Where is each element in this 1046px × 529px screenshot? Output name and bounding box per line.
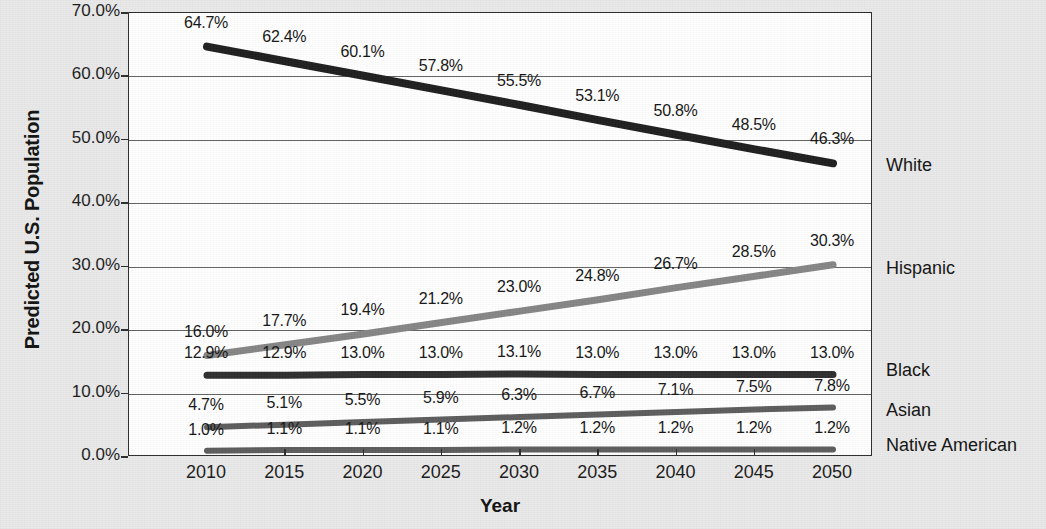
data-point-label: 1.1% — [267, 420, 302, 438]
data-point-label: 1.2% — [814, 419, 849, 437]
data-point-label: 12.9% — [184, 344, 228, 362]
y-tick-mark — [121, 329, 128, 331]
data-point-label: 13.0% — [419, 344, 463, 362]
x-tick-label: 2045 — [709, 462, 799, 483]
x-tick-mark — [754, 449, 756, 456]
data-point-label: 1.0% — [188, 421, 223, 439]
data-point-label: 1.2% — [580, 419, 615, 437]
data-point-label: 13.1% — [497, 343, 541, 361]
data-point-label: 1.1% — [345, 420, 380, 438]
data-point-label: 5.1% — [267, 394, 302, 412]
x-tick-label: 2050 — [787, 462, 877, 483]
data-point-label: 28.5% — [732, 243, 776, 261]
data-point-label: 5.5% — [345, 391, 380, 409]
data-point-label: 13.0% — [810, 344, 854, 362]
data-point-label: 19.4% — [341, 301, 385, 319]
data-point-label: 24.8% — [575, 267, 619, 285]
data-point-label: 23.0% — [497, 278, 541, 296]
x-tick-mark — [363, 449, 365, 456]
x-tick-label: 2040 — [631, 462, 721, 483]
y-tick-label: 0.0% — [28, 445, 120, 465]
data-point-label: 57.8% — [419, 57, 463, 75]
data-point-label: 12.9% — [262, 344, 306, 362]
y-tick-label: 30.0% — [28, 255, 120, 275]
y-tick-label: 20.0% — [28, 318, 120, 338]
x-tick-label: 2030 — [474, 462, 564, 483]
y-tick-mark — [121, 202, 128, 204]
data-point-label: 62.4% — [262, 28, 306, 46]
data-point-label: 55.5% — [497, 72, 541, 90]
data-point-label: 7.8% — [814, 377, 849, 395]
data-point-label: 13.0% — [341, 344, 385, 362]
x-tick-label: 2025 — [396, 462, 486, 483]
y-tick-mark — [121, 266, 128, 268]
series-label-hispanic: Hispanic — [886, 258, 955, 279]
y-tick-label: 60.0% — [28, 64, 120, 84]
x-tick-mark — [441, 449, 443, 456]
y-tick-mark — [121, 456, 128, 458]
x-tick-label: 2015 — [239, 462, 329, 483]
data-point-label: 30.3% — [810, 232, 854, 250]
y-tick-label: 10.0% — [28, 382, 120, 402]
data-point-label: 60.1% — [341, 43, 385, 61]
data-point-label: 16.0% — [184, 323, 228, 341]
data-point-label: 13.0% — [654, 344, 698, 362]
y-tick-mark — [121, 12, 128, 14]
x-tick-label: 2035 — [552, 462, 642, 483]
x-tick-label: 2020 — [318, 462, 408, 483]
y-tick-label: 50.0% — [28, 128, 120, 148]
x-tick-mark — [284, 449, 286, 456]
x-tick-label: 2010 — [161, 462, 251, 483]
x-tick-mark — [676, 449, 678, 456]
data-point-label: 21.2% — [419, 290, 463, 308]
data-point-label: 48.5% — [732, 116, 776, 134]
data-point-label: 5.9% — [423, 389, 458, 407]
data-point-label: 7.1% — [658, 381, 693, 399]
data-point-label: 64.7% — [184, 14, 228, 32]
y-tick-mark — [121, 75, 128, 77]
data-point-label: 46.3% — [810, 130, 854, 148]
data-point-label: 1.1% — [423, 420, 458, 438]
data-point-label: 26.7% — [654, 255, 698, 273]
data-point-label: 1.2% — [736, 419, 771, 437]
x-tick-mark — [519, 449, 521, 456]
x-tick-mark — [597, 449, 599, 456]
y-tick-label: 70.0% — [28, 1, 120, 21]
data-point-label: 7.5% — [736, 378, 771, 396]
y-tick-mark — [121, 393, 128, 395]
data-point-label: 13.0% — [575, 344, 619, 362]
data-point-label: 17.7% — [262, 312, 306, 330]
data-point-label: 50.8% — [654, 102, 698, 120]
data-point-label: 4.7% — [188, 396, 223, 414]
data-point-label: 1.2% — [658, 419, 693, 437]
series-label-white: White — [886, 155, 932, 176]
population-projection-line-chart: Predicted U.S. Population Year 0.0%10.0%… — [0, 0, 1046, 529]
y-tick-label: 40.0% — [28, 191, 120, 211]
data-point-label: 53.1% — [575, 87, 619, 105]
data-point-label: 13.0% — [732, 344, 776, 362]
data-point-label: 6.7% — [580, 384, 615, 402]
data-point-label: 6.3% — [501, 386, 536, 404]
series-label-asian: Asian — [886, 400, 931, 421]
data-point-label: 1.2% — [501, 419, 536, 437]
series-label-native-american: Native American — [886, 435, 1017, 456]
y-tick-mark — [121, 139, 128, 141]
series-label-black: Black — [886, 360, 930, 381]
